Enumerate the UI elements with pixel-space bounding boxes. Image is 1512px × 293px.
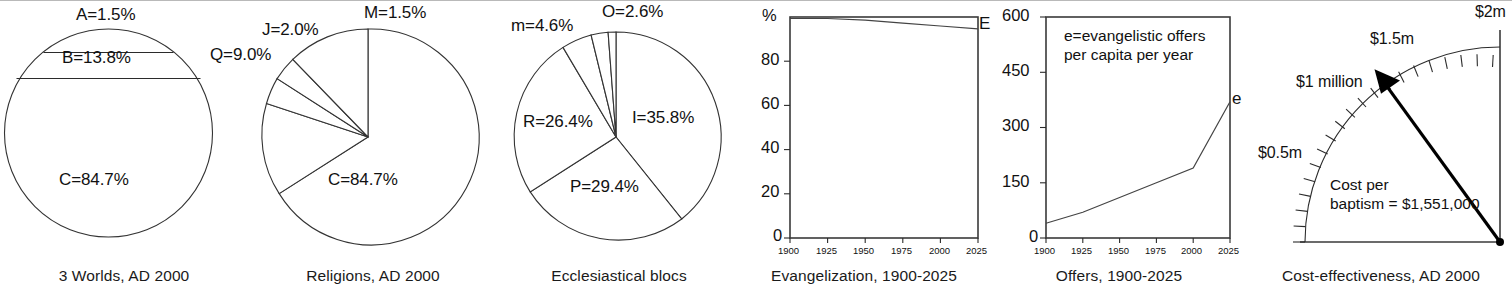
gauge-value-annotation: Cost per baptism = $1,551,000 xyxy=(1330,175,1480,213)
gauge-scale-label-1-5m: $1.5m xyxy=(1370,30,1414,48)
x-tick-1975: 1975 xyxy=(891,245,912,256)
panel-offers: 600 450 300 150 0 1900 1925 1950 1975 20… xyxy=(988,0,1250,293)
x-tick-1950: 1950 xyxy=(1108,245,1129,256)
series-label-e: e xyxy=(1232,89,1241,109)
six-panel-statistics-figure: A=1.5% B=13.8% C=84.7% 3 Worlds, AD 2000… xyxy=(0,0,1512,293)
slice-label-I: I=35.8% xyxy=(632,108,694,128)
segment-label-A: A=1.5% xyxy=(76,5,135,25)
slice-label-C: C=84.7% xyxy=(328,170,398,190)
y-tick-40: 40 xyxy=(761,138,779,157)
gauge-scale-label-0-5m: $0.5m xyxy=(1258,144,1302,162)
panel-caption-evangelization: Evangelization, 1900-2025 xyxy=(740,267,988,285)
segment-label-B: B=13.8% xyxy=(62,48,131,68)
x-tick-1975: 1975 xyxy=(1145,245,1166,256)
x-tick-2025: 2025 xyxy=(966,245,987,256)
gauge-scale-label-2m: $2m xyxy=(1475,3,1506,21)
y-tick-20: 20 xyxy=(761,182,779,201)
slice-label-Q: Q=9.0% xyxy=(210,45,271,65)
x-tick-1925: 1925 xyxy=(816,245,837,256)
panel-three-worlds: A=1.5% B=13.8% C=84.7% 3 Worlds, AD 2000 xyxy=(0,0,248,293)
panel-religions: J=2.0% M=1.5% Q=9.0% C=84.7% Religions, … xyxy=(248,0,498,293)
segment-label-C: C=84.7% xyxy=(59,170,129,190)
slice-label-M: M=1.5% xyxy=(364,3,426,23)
panel-caption-three-worlds: 3 Worlds, AD 2000 xyxy=(0,267,248,285)
gauge-scale-label-1-million: $1 million xyxy=(1296,73,1363,91)
x-tick-2025: 2025 xyxy=(1218,245,1239,256)
y-tick-60: 60 xyxy=(761,94,779,113)
y-tick-300: 300 xyxy=(1002,116,1030,135)
panel-caption-cost-effectiveness: Cost-effectiveness, AD 2000 xyxy=(1250,267,1512,285)
panel-ecclesiastical-blocs: m=4.6% O=2.6% R=26.4% I=35.8% P=29.4% Ec… xyxy=(498,0,740,293)
x-tick-2000: 2000 xyxy=(929,245,950,256)
x-tick-1900: 1900 xyxy=(778,245,799,256)
y-tick-80: 80 xyxy=(761,50,779,69)
panel-cost-effectiveness: $0.5m $1 million $1.5m $2m Cost per bapt… xyxy=(1250,0,1512,293)
x-tick-1925: 1925 xyxy=(1071,245,1092,256)
offers-annotation: e=evangelistic offers per capita per yea… xyxy=(1064,26,1205,64)
panel-evangelization: % 80 60 40 20 0 1900 1925 1950 1975 2000… xyxy=(740,0,988,293)
y-tick-0: 0 xyxy=(1029,227,1038,246)
ecclesiastical-blocs-pie-chart xyxy=(498,0,740,293)
slice-label-P: P=29.4% xyxy=(570,177,639,197)
slice-label-R: R=26.4% xyxy=(523,112,593,132)
slice-label-J: J=2.0% xyxy=(262,20,319,40)
y-tick-450: 450 xyxy=(1002,61,1030,80)
x-tick-2000: 2000 xyxy=(1181,245,1202,256)
panel-caption-offers: Offers, 1900-2025 xyxy=(988,267,1250,285)
panel-caption-ecclesiastical-blocs: Ecclesiastical blocs xyxy=(498,267,740,285)
three-worlds-diagram xyxy=(0,0,248,293)
slice-label-m: m=4.6% xyxy=(511,16,573,36)
y-tick-600: 600 xyxy=(1002,6,1030,25)
panel-caption-religions: Religions, AD 2000 xyxy=(248,267,498,285)
x-tick-1950: 1950 xyxy=(853,245,874,256)
slice-label-O: O=2.6% xyxy=(602,2,663,22)
y-axis-title-evangelization: % xyxy=(762,6,777,25)
religions-pie-chart xyxy=(248,0,498,293)
y-tick-0: 0 xyxy=(773,226,782,245)
x-tick-1900: 1900 xyxy=(1034,245,1055,256)
y-tick-150: 150 xyxy=(1002,172,1030,191)
